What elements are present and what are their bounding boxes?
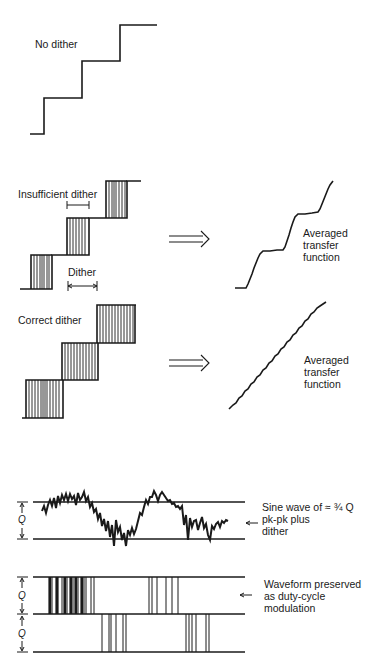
q-label-lower: Q <box>18 628 26 640</box>
correct-dither-label: Correct dither <box>18 314 82 326</box>
sine-wave-caption: Sine wave of ≈ ¾ Q pk-pk plus dither <box>262 501 354 537</box>
duty-cycle-caption: Waveform preserved as duty-cycle modulat… <box>264 578 361 614</box>
dither-width-label: Dither <box>68 266 96 278</box>
q-label-sine: Q <box>18 514 26 526</box>
insufficient-result-label: Averaged transfer function <box>303 227 348 263</box>
sine-wave-plot <box>17 491 258 546</box>
sine-dither-waveform <box>42 491 228 546</box>
no-dither-label: No dither <box>35 38 78 50</box>
insufficient-dither-label: Insufficient dither <box>18 188 97 200</box>
double-arrow-right-icon <box>169 231 209 247</box>
double-arrow-right-icon <box>169 355 209 371</box>
dither-diagram <box>0 0 373 664</box>
correct-result-label: Averaged transfer function <box>304 354 349 390</box>
q-label-upper: Q <box>18 590 26 602</box>
dither-width-bracket <box>68 281 97 291</box>
duty-cycle-plot <box>17 577 252 652</box>
